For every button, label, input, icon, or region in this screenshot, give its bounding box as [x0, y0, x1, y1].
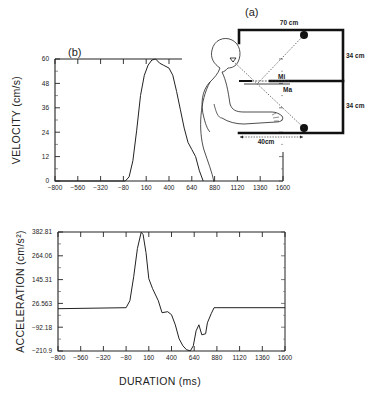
axes [55, 59, 283, 181]
velocity-chart [55, 59, 283, 181]
y-tick-label: 48 [42, 80, 50, 87]
x-tick-label: 1360 [255, 354, 270, 361]
mirror-label-mi: Mi [278, 73, 285, 80]
y-tick-label: 264.06 [32, 252, 52, 259]
x-tick-label: 400 [166, 354, 177, 361]
hand-fingers [272, 113, 279, 121]
y-tick-label: 24 [42, 129, 50, 136]
y-tick-label: 60 [42, 55, 50, 62]
x-axis-title: DURATION (ms) [119, 375, 201, 387]
x-tick-label: 160 [143, 354, 154, 361]
sight-line-direct [233, 61, 304, 128]
x-tick-label: −800 [51, 354, 66, 361]
velocity-chart-line [55, 59, 203, 181]
y-axis-title: VELOCITY (cm/s) [10, 76, 22, 164]
x-tick-label: −80 [121, 354, 132, 361]
reach-distance-label: 40cm [258, 138, 275, 145]
y-axis-title: ACCELERATION (cm/s²) [14, 230, 26, 352]
x-tick-label: 1600 [278, 354, 293, 361]
x-tick-label: −320 [96, 354, 111, 361]
y-tick-label: 0 [45, 177, 49, 184]
x-tick-label: −800 [48, 184, 63, 191]
x-tick-label: 1120 [230, 184, 244, 191]
x-tick-label: 160 [141, 184, 152, 191]
x-tick-label: −80 [118, 184, 129, 191]
x-tick-label: −320 [93, 184, 108, 191]
panel-a-label: (a) [245, 6, 258, 18]
axes [58, 232, 285, 351]
person-arm-inner [214, 104, 222, 118]
top-width-label: 70 cm [280, 19, 299, 26]
x-tick-label: −560 [73, 354, 88, 361]
eye-icon [230, 58, 236, 62]
y-tick-label: −92.18 [32, 324, 52, 331]
y-tick-label: 36 [42, 104, 50, 111]
acceleration-chart [58, 232, 285, 351]
apparatus-diagram [201, 30, 343, 182]
y-tick-label: −210.9 [32, 347, 52, 354]
y-tick-label: 145.31 [32, 276, 52, 283]
x-tick-label: 880 [209, 184, 220, 191]
upper-height-label: 34 cm [346, 52, 365, 59]
panel-b-label: (b) [68, 46, 81, 58]
person-silhouette [202, 38, 283, 132]
y-tick-label: 26.563 [32, 300, 52, 307]
mirror-label-ma: Ma [283, 86, 292, 93]
x-tick-label: 1360 [253, 184, 268, 191]
y-tick-label: 12 [42, 153, 50, 160]
x-tick-label: 1120 [233, 354, 247, 361]
x-tick-label: 640 [186, 184, 197, 191]
figure-canvas: −800−560−320−801604006408801120136016000… [0, 0, 382, 396]
x-tick-label: −560 [70, 184, 85, 191]
x-tick-label: 880 [211, 354, 222, 361]
acceleration-chart-line [58, 232, 285, 351]
x-tick-label: 400 [164, 184, 175, 191]
x-tick-label: 1600 [276, 184, 291, 191]
lower-height-label: 34 cm [346, 102, 365, 109]
x-tick-label: 640 [189, 354, 200, 361]
y-tick-label: 382.81 [32, 228, 52, 235]
